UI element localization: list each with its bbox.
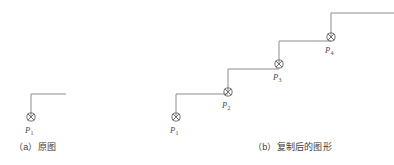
point-label-subscript: 2	[228, 105, 231, 111]
point-label-subscript: 3	[279, 77, 282, 83]
figure-a-shape-1	[31, 94, 66, 117]
point-label-letter: P	[325, 45, 330, 55]
point-label-p1: P1	[170, 126, 178, 135]
figure-b-shape-1	[176, 94, 228, 117]
point-label-letter: P	[222, 100, 227, 110]
point-label-p4: P4	[325, 46, 333, 55]
figure-b-caption: （b）复制后的图形	[253, 143, 332, 152]
point-label-letter: P	[170, 125, 175, 135]
point-label-subscript: 4	[331, 50, 334, 56]
figure-b-shape-3	[279, 41, 331, 64]
drawing-canvas	[0, 0, 394, 165]
figure-a-caption: （a）原图	[14, 143, 56, 152]
point-label-p3: P3	[273, 73, 281, 82]
point-label-p2: P2	[222, 101, 230, 110]
figure-b	[172, 13, 394, 121]
point-label-subscript: 1	[176, 130, 179, 136]
figure-b-shape-2	[228, 69, 279, 92]
figure-a	[27, 94, 66, 121]
point-label-letter: P	[273, 72, 278, 82]
point-label-letter: P	[25, 125, 30, 135]
figure-b-shape-4	[331, 13, 394, 37]
point-label-subscript: 1	[31, 130, 34, 136]
point-label-p1: P1	[25, 126, 33, 135]
technical-illustration: P1（a）原图P1P2P3P4（b）复制后的图形	[0, 0, 394, 165]
